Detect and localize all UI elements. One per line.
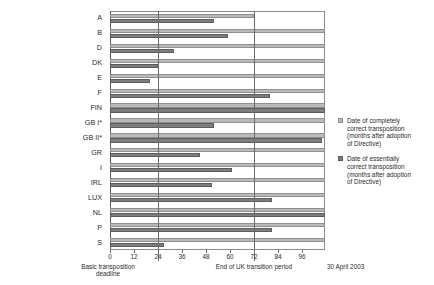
legend-label: Date of essentially correct transpositio… xyxy=(347,155,411,185)
bar-GBI-s0 xyxy=(110,118,325,122)
bar-F-s1 xyxy=(110,94,270,98)
category-label: GB II* xyxy=(83,134,102,142)
tick-label: 12 xyxy=(124,253,144,260)
tick-label: 36 xyxy=(172,253,192,260)
bars-layer xyxy=(110,11,325,250)
bar-S-s0 xyxy=(110,238,325,242)
reference-line-0 xyxy=(158,11,159,261)
category-label: S xyxy=(97,239,102,247)
bar-IRL-s1 xyxy=(110,183,212,187)
annotation-basic-deadline: Basic transposition deadline xyxy=(58,263,158,278)
category-label: B xyxy=(97,29,102,37)
category-label: GB I* xyxy=(85,119,102,127)
chart-legend: Date of completely correct transposition… xyxy=(338,117,432,194)
legend-entry-0[interactable]: Date of completely correct transposition… xyxy=(338,117,432,147)
bar-GR-s1 xyxy=(110,153,200,157)
bar-FIN-s1 xyxy=(110,108,325,112)
tick-label: 96 xyxy=(292,253,312,260)
bar-E-s1 xyxy=(110,79,150,83)
category-label: FIN xyxy=(90,104,102,112)
bar-FIN-s0 xyxy=(110,103,325,107)
bar-P-s0 xyxy=(110,223,325,227)
annotation-uk-transition: End of UK transition period xyxy=(194,263,314,270)
bar-I-s0 xyxy=(110,163,325,167)
tick-label: 24 xyxy=(148,253,168,260)
bar-P-s1 xyxy=(110,228,272,232)
bar-S-s1 xyxy=(110,243,164,247)
category-label: I xyxy=(100,164,102,172)
bar-B-s1 xyxy=(110,34,228,38)
tick-label: 0 xyxy=(100,253,120,260)
tick-label: 60 xyxy=(220,253,240,260)
bar-GBII-s0 xyxy=(110,133,325,137)
bar-LUX-s1 xyxy=(110,198,272,202)
bar-D-s0 xyxy=(110,44,325,48)
bar-chart: ABDDKEFFINGB I*GB II*GRIIRLLUXNLPS 01224… xyxy=(0,0,434,285)
category-axis-labels: ABDDKEFFINGB I*GB II*GRIIRLLUXNLPS xyxy=(18,11,106,250)
bar-DK-s1 xyxy=(110,64,158,68)
bar-LUX-s0 xyxy=(110,193,325,197)
bar-B-s0 xyxy=(110,29,325,33)
bar-F-s0 xyxy=(110,89,325,93)
category-label: DK xyxy=(92,59,102,67)
reference-line-1 xyxy=(254,11,255,261)
legend-label: Date of completely correct transposition… xyxy=(347,117,411,147)
tick-label: 72 xyxy=(244,253,264,260)
category-label: LUX xyxy=(88,194,102,202)
bar-D-s1 xyxy=(110,49,174,53)
bar-DK-s0 xyxy=(110,59,325,63)
legend-swatch-icon xyxy=(338,118,343,123)
annotation-end-date: 30 April 2003 xyxy=(327,263,397,270)
bar-A-s1 xyxy=(110,19,214,23)
bar-IRL-s0 xyxy=(110,178,325,182)
legend-swatch-icon xyxy=(338,156,343,161)
tick-label: 84 xyxy=(268,253,288,260)
bar-A-s0 xyxy=(110,14,254,18)
category-label: A xyxy=(97,14,102,22)
category-label: IRL xyxy=(91,179,102,187)
legend-entry-1[interactable]: Date of essentially correct transpositio… xyxy=(338,155,432,185)
bar-GBII-s1 xyxy=(110,138,322,142)
category-label: NL xyxy=(93,209,102,217)
bar-GBI-s1 xyxy=(110,123,214,127)
bar-NL-s1 xyxy=(110,213,325,217)
category-label: GR xyxy=(91,149,102,157)
category-label: E xyxy=(97,74,102,82)
bar-E-s0 xyxy=(110,74,325,78)
category-label: D xyxy=(97,44,102,52)
bar-GR-s0 xyxy=(110,148,325,152)
bar-NL-s0 xyxy=(110,208,325,212)
category-label: P xyxy=(97,224,102,232)
tick-label: 48 xyxy=(196,253,216,260)
category-label: F xyxy=(98,89,102,97)
bar-I-s1 xyxy=(110,168,232,172)
